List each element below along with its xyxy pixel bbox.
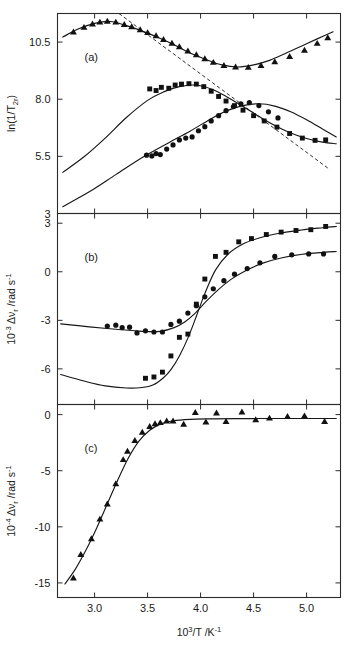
data-point-circle — [232, 272, 237, 277]
data-point-circle — [209, 118, 214, 123]
data-point-square — [294, 228, 299, 233]
data-point-square — [143, 376, 148, 381]
triangle-fit — [63, 21, 333, 67]
y-tick-label: 3 — [44, 217, 50, 229]
data-point-circle — [289, 252, 294, 257]
y-axis-title-b: 10-3 Δνr /rad s-1 — [4, 273, 20, 345]
data-point-square — [274, 125, 279, 130]
data-point-triangle — [286, 53, 293, 59]
data-point-circle — [202, 294, 207, 299]
circle-series — [105, 251, 326, 335]
data-point-circle — [272, 254, 277, 259]
y-axis-title-c: 10-4 Δνr /rad s-1 — [4, 465, 20, 537]
x-tick-label: 4.0 — [193, 602, 208, 614]
data-point-square — [224, 250, 229, 255]
multi-panel-figure: 10.58.05.53(a)30-3-6(b)0-5-10-15(c)3.03.… — [0, 0, 353, 647]
data-point-circle — [238, 101, 243, 106]
data-point-triangle — [314, 40, 321, 46]
data-point-square — [194, 82, 199, 87]
data-point-square — [249, 236, 254, 241]
data-point-triangle — [157, 419, 164, 425]
data-point-square — [241, 108, 246, 113]
triangle-fit — [65, 419, 336, 585]
y-tick-label: -6 — [41, 363, 51, 375]
data-point-square — [236, 239, 241, 244]
data-point-square — [152, 375, 157, 380]
data-point-triangle — [104, 501, 111, 507]
labels-layer: 10.58.05.53(a)30-3-6(b)0-5-10-15(c)3.03.… — [4, 36, 314, 638]
data-point-triangle — [238, 408, 245, 414]
data-point-circle — [247, 100, 252, 105]
data-point-circle — [190, 134, 195, 139]
panel-tag-3: (c) — [85, 442, 98, 454]
data-point-triangle — [104, 18, 111, 24]
data-point-triangle — [88, 535, 95, 541]
data-point-square — [209, 89, 214, 94]
data-point-triangle — [252, 416, 259, 422]
y-axis-title-a: ln(1/T2r) — [5, 95, 20, 132]
data-point-circle — [266, 109, 271, 114]
data-point-square — [323, 137, 328, 142]
figure-container: 10.58.05.53(a)30-3-6(b)0-5-10-15(c)3.03.… — [0, 0, 353, 647]
data-point-square — [213, 254, 218, 259]
circle-fit — [63, 104, 336, 207]
data-point-triangle — [152, 420, 159, 426]
circle-fit — [61, 252, 337, 332]
data-point-circle — [177, 137, 182, 142]
data-point-square — [287, 131, 292, 136]
data-point-square — [160, 370, 165, 375]
data-point-circle — [275, 115, 280, 120]
data-point-triangle — [213, 410, 220, 416]
data-point-square — [300, 136, 305, 141]
panel-tag-2: (b) — [85, 251, 98, 263]
y-tick-label: -10 — [35, 521, 51, 533]
data-point-square — [264, 232, 269, 237]
plot-content — [65, 408, 336, 584]
arrhenius-asymptote — [119, 14, 330, 170]
data-point-circle — [170, 142, 175, 147]
data-point-circle — [151, 329, 156, 334]
data-point-circle — [196, 128, 201, 133]
data-point-triangle — [266, 415, 273, 421]
panel-1 — [58, 14, 341, 214]
data-point-square — [251, 113, 256, 118]
x-tick-label: 5.0 — [299, 602, 314, 614]
triangle-series — [70, 408, 328, 580]
data-point-square — [168, 353, 173, 358]
data-point-square — [177, 335, 182, 340]
x-tick-label: 3.0 — [87, 602, 102, 614]
x-tick-label: 4.5 — [246, 602, 261, 614]
data-point-square — [173, 83, 178, 88]
data-point-square — [159, 85, 164, 90]
data-point-circle — [143, 328, 148, 333]
data-point-circle — [216, 113, 221, 118]
data-point-square — [262, 118, 267, 123]
data-point-circle — [306, 251, 311, 256]
data-point-circle — [144, 153, 149, 158]
y-tick-label: 10.5 — [29, 36, 50, 48]
data-point-triangle — [301, 47, 308, 53]
data-point-triangle — [112, 480, 119, 486]
panel-2 — [58, 214, 341, 405]
data-point-circle — [127, 325, 132, 330]
data-point-triangle — [120, 456, 127, 462]
plot-content — [61, 224, 337, 388]
data-point-circle — [221, 278, 226, 283]
data-point-square — [166, 86, 171, 91]
square-fit — [61, 226, 337, 388]
data-point-triangle — [70, 28, 77, 34]
data-point-square — [216, 94, 221, 99]
y-tick-label: 5.5 — [35, 150, 50, 162]
data-point-square — [147, 86, 152, 91]
data-point-circle — [185, 310, 190, 315]
data-point-triangle — [284, 413, 291, 419]
plot-content — [63, 14, 336, 207]
data-point-triangle — [139, 429, 146, 435]
data-point-triangle — [301, 412, 308, 418]
data-point-circle — [194, 303, 199, 308]
plot-frame — [58, 14, 341, 214]
data-point-circle — [113, 323, 118, 328]
data-point-circle — [105, 323, 110, 328]
x-axis-title: 103/T /K-1 — [177, 625, 222, 638]
data-point-circle — [158, 152, 163, 157]
